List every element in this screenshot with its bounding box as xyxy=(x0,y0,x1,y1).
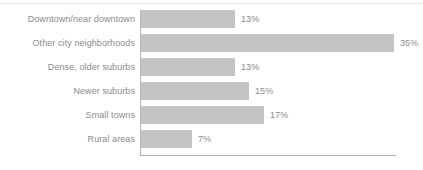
bar-row: Downtown/near downtown13% xyxy=(0,10,423,34)
category-label: Small towns xyxy=(0,106,135,124)
bar-row: Other city neighborhoods35% xyxy=(0,34,423,58)
bar-chart: Downtown/near downtown13%Other city neig… xyxy=(0,0,423,170)
category-label: Newer suburbs xyxy=(0,82,135,100)
bar-row: Small towns17% xyxy=(0,106,423,130)
bar xyxy=(141,10,235,28)
bar-row: Dense, older suburbs13% xyxy=(0,58,423,82)
category-label: Downtown/near downtown xyxy=(0,10,135,28)
top-divider-rule xyxy=(0,3,423,4)
bar xyxy=(141,58,235,76)
category-label: Rural areas xyxy=(0,130,135,148)
bar-row: Rural areas7% xyxy=(0,130,423,154)
category-label: Dense, older suburbs xyxy=(0,58,135,76)
category-label: Other city neighborhoods xyxy=(0,34,135,52)
bar xyxy=(141,106,264,124)
bar xyxy=(141,130,192,148)
bar-value-label: 13% xyxy=(241,58,259,76)
bar-value-label: 13% xyxy=(241,10,259,28)
bar xyxy=(141,82,249,100)
bar-value-label: 7% xyxy=(198,130,211,148)
bar-value-label: 35% xyxy=(400,34,418,52)
x-axis-baseline xyxy=(140,155,396,156)
bar xyxy=(141,34,394,52)
bar-row: Newer suburbs15% xyxy=(0,82,423,106)
bar-value-label: 15% xyxy=(255,82,273,100)
plot-area: Downtown/near downtown13%Other city neig… xyxy=(0,10,423,160)
bar-value-label: 17% xyxy=(270,106,288,124)
bar-rows: Downtown/near downtown13%Other city neig… xyxy=(0,10,423,154)
